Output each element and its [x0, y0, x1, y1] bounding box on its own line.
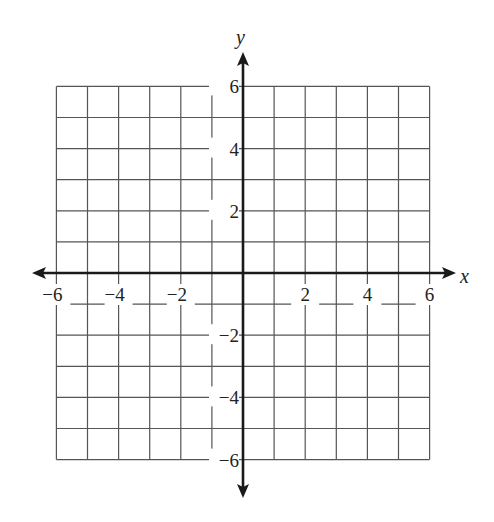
y-tick-label: −4: [219, 387, 240, 408]
x-axis-label: x: [459, 265, 469, 287]
x-tick-label: −2: [167, 284, 187, 305]
y-tick-label: −2: [219, 325, 239, 346]
coordinate-plane: −6−4−2246642−2−4−6−6−4−2246 x y: [0, 0, 494, 522]
y-tick-label: 4: [230, 139, 240, 160]
x-tick-label: −4: [104, 284, 125, 305]
y-tick-label: 6: [230, 76, 240, 97]
y-tick-label: 2: [230, 201, 240, 222]
y-axis-label: y: [234, 26, 245, 49]
x-tick-label: 2: [300, 284, 310, 305]
x-tick-label: 4: [363, 284, 373, 305]
x-tick-label: −6: [42, 284, 62, 305]
x-tick-label: 6: [425, 284, 435, 305]
axes: [32, 52, 456, 498]
y-tick-label: −6: [219, 450, 239, 471]
